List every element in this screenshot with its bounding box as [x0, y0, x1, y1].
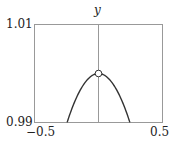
open-circle-marker: [95, 70, 102, 77]
x-tick-right: 0.5: [150, 126, 169, 138]
y-tick-top: 1.01: [6, 18, 33, 30]
x-tick-left: −0.5: [26, 126, 55, 138]
y-axis-label: y: [94, 4, 101, 16]
